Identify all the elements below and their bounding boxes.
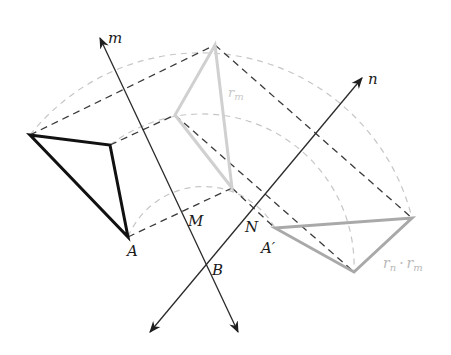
label-line-n: n: [368, 70, 378, 88]
triangle-original: [30, 135, 128, 237]
connector-m-3: [128, 188, 232, 237]
connector-n-1: [215, 45, 412, 218]
line-m: [100, 38, 238, 332]
label-composition: rn·rm: [383, 255, 423, 273]
dashed-connectors: [30, 45, 412, 272]
composition-dot: ·: [399, 255, 403, 271]
composition-rm-sub: m: [413, 262, 422, 273]
connector-m-1: [30, 45, 215, 135]
label-reflection-m: rm: [228, 85, 244, 102]
label-point-B: B: [211, 261, 223, 279]
label-point-M: M: [187, 212, 204, 230]
line-n: [150, 78, 362, 332]
label-point-N: N: [244, 218, 259, 236]
triangle-reflected-m: [175, 45, 232, 188]
reflection-composition-diagram: m n M N A B A′ rm rn·rm: [0, 0, 451, 355]
composition-rn-sub: n: [390, 262, 396, 273]
label-point-A-prime: A′: [259, 239, 276, 257]
label-point-A: A: [125, 242, 138, 260]
label-line-m: m: [108, 29, 122, 47]
reflection-m-sub: m: [234, 91, 243, 102]
